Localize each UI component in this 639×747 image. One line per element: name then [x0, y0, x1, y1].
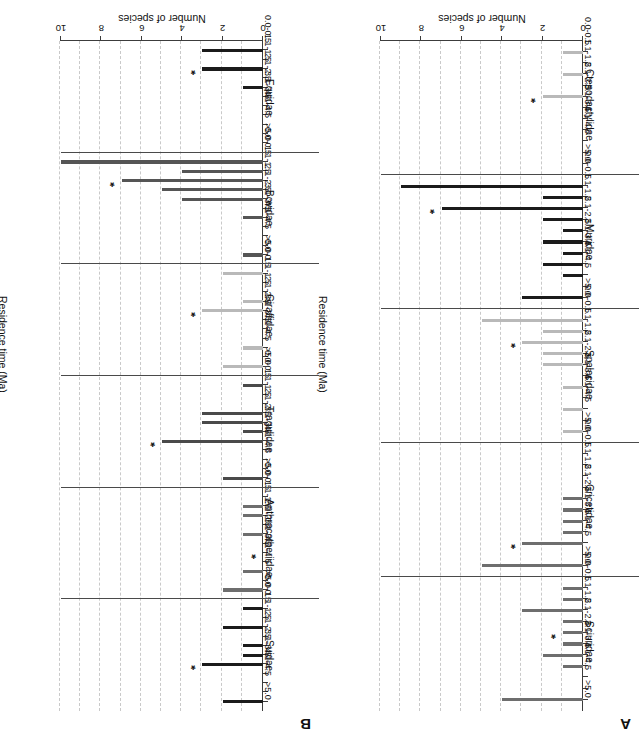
bin-row — [61, 245, 263, 246]
family-block: Sciuridae0.0-0.51.1-1.52.1-2.5*3.1-3.54.… — [381, 577, 583, 711]
bar — [563, 642, 583, 645]
bin-row: >5.0 — [61, 477, 263, 478]
bar — [543, 330, 583, 333]
bar — [563, 51, 583, 54]
mean-marker-asterisk: * — [551, 628, 556, 640]
bin-row: >5.0 — [381, 699, 583, 700]
bin-label: 4.1-4.5 — [263, 313, 273, 341]
panel-a: A0246810Number of speciesResidence time … — [320, 0, 639, 747]
bar — [563, 408, 583, 411]
bin-row — [381, 263, 583, 264]
bin-label: 4.1-4.5 — [263, 425, 273, 453]
bin-row: 0.0-0.5 — [381, 319, 583, 320]
bin-row: 1.1-1.5 — [61, 291, 263, 292]
bin-row — [381, 196, 583, 197]
bin-row: 3.1-3.5 — [61, 105, 263, 106]
bin-tick — [263, 366, 268, 367]
bar — [502, 698, 583, 701]
panel-letter-b: B — [300, 716, 311, 733]
bar — [543, 196, 583, 199]
family-separator — [61, 598, 319, 599]
family-separator — [61, 152, 319, 153]
bin-row: 4.1-4.5 — [381, 409, 583, 410]
bin-row — [61, 654, 263, 655]
bin-row: 1.1-1.5 — [381, 610, 583, 611]
panel-b: B0246810Number of speciesResidence time … — [0, 0, 319, 747]
bin-row: >5.0 — [381, 431, 583, 432]
bar — [243, 300, 263, 303]
bin-label: >5.0 — [583, 546, 593, 564]
bin-row — [61, 319, 263, 320]
bin-row — [61, 189, 263, 190]
bin-row: 3.1-3.5* — [61, 663, 263, 664]
bin-row: 0.0-0.5 — [61, 608, 263, 609]
bar — [182, 170, 263, 173]
bin-row — [381, 598, 583, 599]
bin-row: 3.1-3.5 — [61, 217, 263, 218]
bin-row — [381, 241, 583, 242]
bar — [563, 587, 583, 590]
family-block: Anthracotheriidae0.0-0.51.1-1.52.1-2.53.… — [61, 488, 263, 600]
family-block: Giraffidae0.0-0.51.1-1.52.1-2.5*3.1-3.54… — [61, 264, 263, 376]
family-block: Spalacidae0.0-0.51.1-1.5*2.1-2.53.1-3.54… — [381, 309, 583, 443]
bin-row: 2.1-2.5 — [61, 533, 263, 534]
bin-row: 1.1-1.5 — [61, 515, 263, 516]
bin-tick — [583, 543, 588, 544]
bin-tick — [583, 565, 588, 566]
bar — [563, 386, 583, 389]
bin-row — [61, 96, 263, 97]
bin-row: >5.0 — [381, 163, 583, 164]
bar — [563, 631, 583, 634]
mean-marker-asterisk: * — [430, 204, 435, 216]
bin-row — [61, 431, 263, 432]
bin-label: 4.1-4.5 — [583, 643, 593, 671]
bar — [442, 207, 583, 210]
bin-row — [61, 412, 263, 413]
bar — [243, 644, 263, 647]
bar — [243, 216, 263, 219]
family-block: Cricetidae0.0-0.51.1-1.52.1-2.53.1-3.54.… — [381, 443, 583, 577]
bin-row — [61, 208, 263, 209]
bin-row: 0.0-0.5 — [61, 273, 263, 274]
bar — [202, 412, 263, 415]
bin-row — [381, 375, 583, 376]
bin-row — [61, 133, 263, 134]
bar — [61, 160, 263, 163]
bin-row — [381, 665, 583, 666]
mean-marker-asterisk: * — [191, 64, 196, 76]
bin-row: 3.1-3.5 — [61, 328, 263, 329]
bar — [563, 508, 583, 511]
bin-label: 4.1-4.5 — [583, 107, 593, 135]
bar — [563, 598, 583, 601]
bar — [563, 229, 583, 232]
bin-row: 3.1-3.5 — [381, 252, 583, 253]
bar — [243, 253, 263, 256]
bin-row: 0.0-0.5 — [381, 185, 583, 186]
bin-row — [381, 286, 583, 287]
bin-row — [381, 62, 583, 63]
bin-row: 4.1-4.5* — [381, 543, 583, 544]
bin-row: >5.0 — [61, 366, 263, 367]
family-separator — [381, 576, 639, 577]
bin-label: >5.0 — [583, 144, 593, 162]
bin-row — [381, 85, 583, 86]
bar — [243, 607, 263, 610]
bin-row — [61, 673, 263, 674]
family-separator — [381, 308, 639, 309]
bar — [223, 626, 263, 629]
bin-row: 4.1-4.5 — [61, 459, 263, 460]
bin-row — [381, 353, 583, 354]
mean-marker-asterisk: * — [191, 306, 196, 318]
bin-row: 1.1-1.5* — [381, 208, 583, 209]
bin-row — [381, 330, 583, 331]
bin-row: 0.0-0.5 — [381, 453, 583, 454]
family-block: Bovidae0.0-0.51.1-1.5*2.1-2.53.1-3.54.1-… — [61, 153, 263, 265]
family-block: Tragulidae0.0-0.51.1-1.52.1-2.53.1-3.5*4… — [61, 376, 263, 488]
bin-tick — [583, 699, 588, 700]
bar — [223, 700, 263, 703]
bin-row: 1.1-1.5* — [61, 180, 263, 181]
family-separator — [381, 174, 639, 175]
bin-row: 3.1-3.5* — [61, 440, 263, 441]
bar — [202, 309, 263, 312]
bar — [563, 665, 583, 668]
